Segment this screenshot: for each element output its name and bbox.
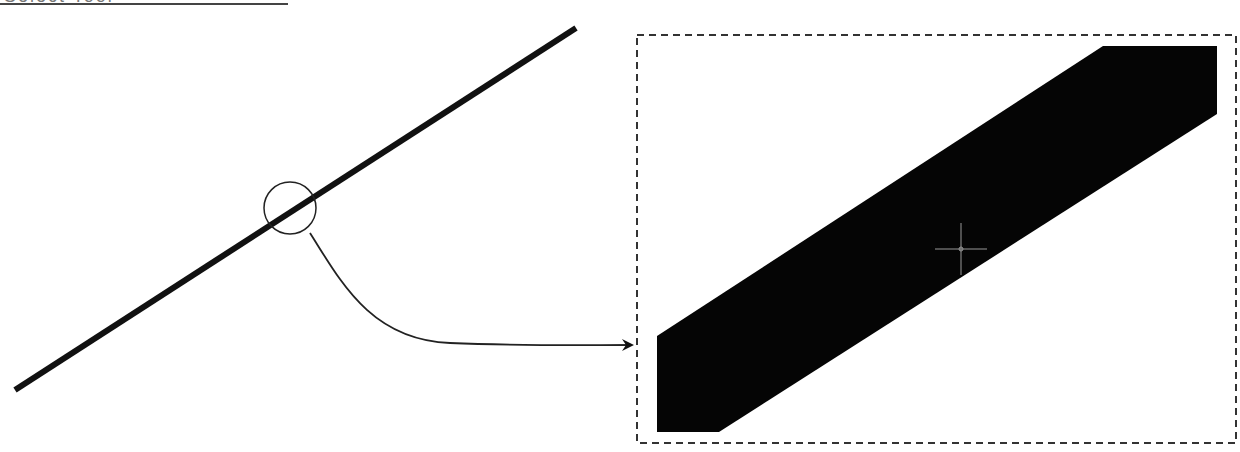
thick-line[interactable] [15, 28, 576, 390]
connector-arrow [310, 233, 632, 345]
zoomed-line-segment[interactable] [657, 46, 1217, 432]
magnifier-circle [264, 182, 316, 234]
diagram-canvas [0, 0, 1240, 452]
